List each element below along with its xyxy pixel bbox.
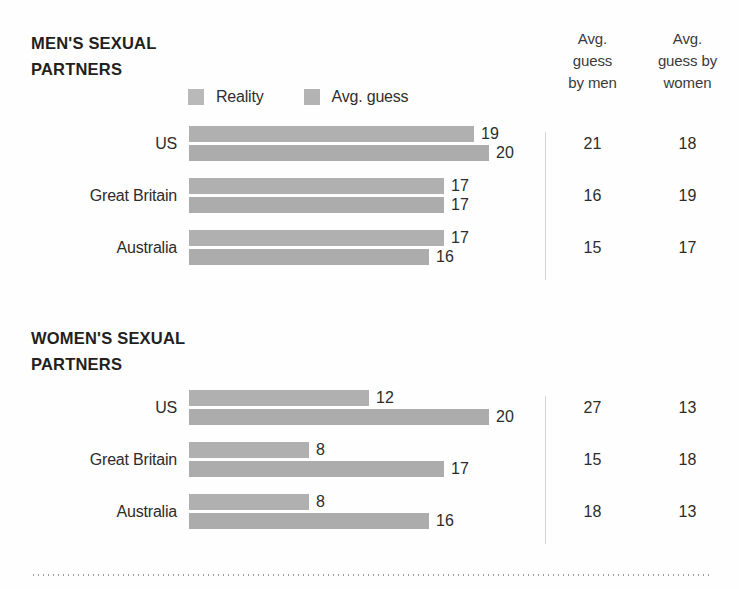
bar-value-reality: 19 (481, 126, 499, 142)
column-header-line: women (640, 72, 735, 94)
legend-item-avg-guess: Avg. guess (304, 88, 409, 106)
chart-womens-sexual-partners: US12202713Great Britain8171518Australia8… (0, 390, 739, 546)
cell-guess-by-women: 18 (640, 442, 735, 472)
section-title-line: PARTNERS (31, 56, 157, 82)
section-title-line: WOMEN'S SEXUAL (31, 325, 185, 351)
column-header-avg-guess-by-women: Avg. guess by women (640, 28, 735, 94)
bar-value-guess: 17 (451, 197, 469, 213)
cell-guess-by-men: 21 (545, 126, 640, 156)
cell-guess-by-women: 17 (640, 230, 735, 260)
bar-reality (189, 230, 444, 246)
cell-guess-by-women: 13 (640, 494, 735, 524)
column-header-line: guess by (640, 50, 735, 72)
row-label: Australia (0, 236, 177, 260)
section-title-line: MEN'S SEXUAL (31, 30, 157, 56)
table-column-headers: Avg. guess by men Avg. guess by women (545, 28, 735, 94)
bar-value-guess: 16 (436, 249, 454, 265)
bar-value-reality: 8 (316, 442, 325, 458)
legend-label-reality: Reality (216, 88, 264, 106)
chart-row: Great Britain8171518 (0, 442, 739, 494)
bar-reality (189, 494, 309, 510)
cell-guess-by-men: 16 (545, 178, 640, 208)
column-header-avg-guess-by-men: Avg. guess by men (545, 28, 640, 94)
bar-value-guess: 16 (436, 513, 454, 529)
bar-value-guess: 20 (496, 145, 514, 161)
cell-guess-by-women: 19 (640, 178, 735, 208)
table-row: 1813 (545, 494, 735, 546)
table-row: 2713 (545, 390, 735, 442)
bar-reality (189, 178, 444, 194)
infographic-page: Avg. guess by men Avg. guess by women ME… (0, 0, 739, 589)
section-title-mens-sexual-partners: MEN'S SEXUAL PARTNERS (31, 30, 157, 82)
bar-guess (189, 145, 489, 161)
legend-item-reality: Reality (188, 88, 264, 106)
table-row: 1518 (545, 442, 735, 494)
bar-reality (189, 390, 369, 406)
column-header-line: Avg. (640, 28, 735, 50)
row-label: Great Britain (0, 448, 177, 472)
legend-label-avg-guess: Avg. guess (332, 88, 409, 106)
reality-swatch-icon (188, 89, 204, 105)
section-title-line: PARTNERS (31, 351, 185, 377)
bar-guess (189, 513, 429, 529)
row-label: Great Britain (0, 184, 177, 208)
cell-guess-by-women: 13 (640, 390, 735, 420)
bottom-dotted-divider (31, 574, 713, 576)
bar-value-guess: 20 (496, 409, 514, 425)
chart-mens-sexual-partners: US19202118Great Britain17171619Australia… (0, 126, 739, 282)
table-row: 2118 (545, 126, 735, 178)
cell-guess-by-men: 18 (545, 494, 640, 524)
cell-guess-by-women: 18 (640, 126, 735, 156)
bar-value-reality: 12 (376, 390, 394, 406)
cell-guess-by-men: 27 (545, 390, 640, 420)
chart-row: US12202713 (0, 390, 739, 442)
bar-value-reality: 17 (451, 178, 469, 194)
bar-guess (189, 249, 429, 265)
bar-reality (189, 126, 474, 142)
row-label: US (0, 396, 177, 420)
column-header-line: by men (545, 72, 640, 94)
section-title-womens-sexual-partners: WOMEN'S SEXUAL PARTNERS (31, 325, 185, 377)
chart-row: Australia17161517 (0, 230, 739, 282)
bar-value-guess: 17 (451, 461, 469, 477)
cell-guess-by-men: 15 (545, 442, 640, 472)
bar-value-reality: 17 (451, 230, 469, 246)
chart-row: Australia8161813 (0, 494, 739, 546)
table-row: 1619 (545, 178, 735, 230)
bar-value-reality: 8 (316, 494, 325, 510)
bar-guess (189, 409, 489, 425)
chart-row: US19202118 (0, 126, 739, 178)
row-label: Australia (0, 500, 177, 524)
chart-legend: Reality Avg. guess (188, 88, 448, 106)
cell-guess-by-men: 15 (545, 230, 640, 260)
bar-reality (189, 442, 309, 458)
bar-guess (189, 461, 444, 477)
avg-guess-swatch-icon (304, 89, 320, 105)
table-row: 1517 (545, 230, 735, 282)
bar-guess (189, 197, 444, 213)
column-header-line: guess (545, 50, 640, 72)
column-header-line: Avg. (545, 28, 640, 50)
chart-row: Great Britain17171619 (0, 178, 739, 230)
row-label: US (0, 132, 177, 156)
